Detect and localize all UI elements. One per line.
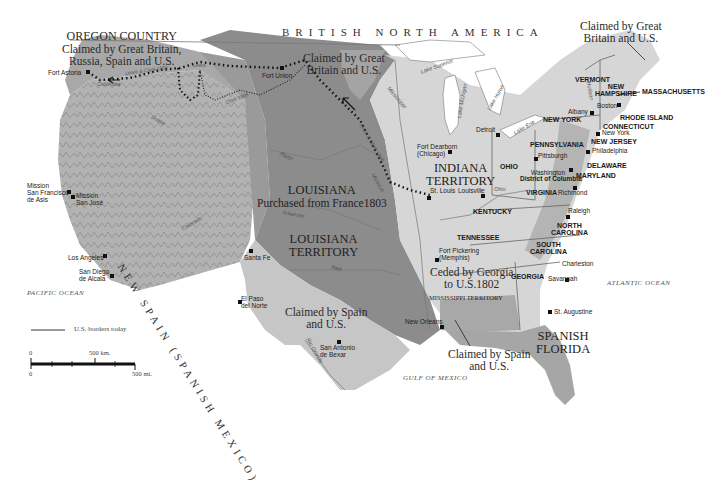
state-north-carolina-line2: CAROLINA [551,229,588,236]
state-north-carolina-line1: NORTH [551,222,588,229]
city-dot-st-augustine [548,310,552,314]
city-dot-washington [569,168,573,172]
louisiana-purchase-line1: LOUISIANA [257,184,387,197]
oregon-country-sub1: Claimed by Great Britain, [62,43,181,55]
city-dot-san-diego [110,274,114,278]
oregon-country-label: OREGON COUNTRY Claimed by Great Britain,… [62,30,181,67]
state-pennsylvania: PENNSYLVANIA [530,141,584,148]
lake-superior [395,40,485,62]
indiana-territory-label: INDIANA TERRITORY [426,162,495,188]
claimed-spain-us-gulf-label: Claimed by Spain and U.S. [448,348,530,372]
city-st-louis: St. Louis [430,188,455,195]
scale-mi-label: 500 mi. [132,371,152,378]
oregon-country-name: OREGON COUNTRY [62,30,181,43]
city-dot-raleigh [566,215,570,219]
claimed-spain-us-gulf-line2: and U.S. [448,360,530,372]
city-savannah: Savannah [548,276,577,283]
state-georgia: GEORGIA [511,273,544,280]
state-delaware: DELAWARE [587,162,627,169]
state-south-carolina: SOUTH CAROLINA [530,241,567,256]
columbia-river-label: Columbia [97,82,120,88]
louisiana-territory-line2: TERRITORY [289,246,358,259]
city-detroit: Detroit [476,127,495,134]
city-mission-sf-line3: de Asis [27,197,69,204]
city-st-augustine: St. Augustine [554,309,592,316]
city-mission-sj: Mission San José [76,193,103,207]
scale-km-zero: 0 [29,350,32,357]
city-fort-dearborn: Fort Dearborn (Chicago) [417,144,457,158]
city-dot-st-louis [427,196,431,200]
claimed-spain-us-texas-label: Claimed by Spain and U.S. [285,306,367,330]
city-fort-pickering: Fort Pickering (Memphis) [439,248,479,262]
city-mission-sj-line2: San José [76,200,103,207]
louisiana-purchase-line2: Purchased from France1803 [257,197,387,209]
city-el-paso: El Paso del Norte [241,296,267,310]
city-pittsburgh: Pittsburgh [538,153,567,160]
louisiana-territory-label: LOUISIANA TERRITORY [289,233,358,259]
state-new-hampshire-line2: HAMPSHIRE [595,90,637,97]
state-new-hampshire: NEW HAMPSHIRE [595,83,637,98]
ceded-georgia-label: Ceded by Georgia to U.S.1802 [430,266,513,290]
city-dot-mission-sj [71,195,75,199]
city-dot-philadelphia [586,150,590,154]
city-boston: Boston [597,103,617,110]
city-san-antonio: San Antonio de Bexar [320,345,355,359]
city-new-orleans: New Orleans [405,319,443,326]
city-fort-dearborn-line2: (Chicago) [417,151,457,158]
state-south-carolina-line2: CAROLINA [530,248,567,255]
claimed-gb-us-north-line2: Britain and U.S. [303,64,385,76]
city-new-york: New York [602,130,629,137]
claimed-spain-us-gulf-line1: Claimed by Spain [448,348,530,360]
ceded-georgia-line1: Ceded by Georgia [430,266,513,278]
lewis-1806-label[interactable]: Lewis [193,63,206,68]
claimed-gb-us-north-label: Claimed by Great Britain and U.S. [303,52,385,76]
pacific-ocean-label: PACIFIC OCEAN [27,290,84,297]
state-tennessee: TENNESSEE [457,234,499,241]
city-charleston: Charleston [562,261,593,268]
state-rhode-island: RHODE ISLAND [620,114,673,121]
city-dot-boston [617,103,621,107]
scale-mi-zero: 0 [29,371,32,378]
legend-borders-label: U.S. borders today [74,326,127,333]
claimed-spain-us-texas-line1: Claimed by Spain [285,306,367,318]
state-new-jersey: NEW JERSEY [591,138,637,145]
state-new-york: NEW YORK [543,116,581,123]
spanish-florida-label: SPANISH FLORIDA [536,330,590,356]
city-santa-fe: Santa Fe [244,255,270,262]
city-richmond: Richmond [558,190,587,197]
british-north-america-label: BRITISH NORTH AMERICA [282,27,544,39]
claimed-gb-us-maine-line2: Britain and U.S. [580,32,662,44]
city-philadelphia: Philadelphia [592,148,627,155]
atlantic-ocean-label: ATLANTIC OCEAN [607,280,670,287]
claimed-gb-us-north-line1: Claimed by Great [303,52,385,64]
city-raleigh: Raleigh [568,208,590,215]
claimed-gb-us-maine-label: Claimed by Great Britain and U.S. [580,20,662,44]
city-fort-pickering-line2: (Memphis) [439,255,479,262]
spanish-florida-line2: FLORIDA [536,343,590,356]
city-dot-albany [590,111,594,115]
city-washington: Washington [531,170,565,177]
city-dot-fort-astoria [86,70,90,74]
city-los-angeles: Los Angeles [68,255,103,262]
ohio-river-label: Ohio [494,187,506,193]
city-dot-fort-union [280,66,284,70]
city-san-diego-line2: de Alcala [79,276,109,283]
state-south-carolina-line1: SOUTH [530,241,567,248]
city-dot-new-york [596,132,600,136]
city-el-paso-line2: del Norte [241,303,267,310]
claimed-spain-us-texas-line2: and U.S. [285,318,367,330]
state-new-hampshire-line1: NEW [595,83,637,90]
gulf-of-mexico-label: GULF OF MEXICO [403,375,468,382]
ceded-georgia-line2: to U.S.1802 [430,278,513,290]
city-dot-detroit [496,133,500,137]
state-massachusetts: MASSACHUSETTS [642,88,705,95]
state-kentucky: KENTUCKY [473,208,512,215]
state-ohio: OHIO [500,163,518,170]
state-north-carolina: NORTH CAROLINA [551,222,588,237]
city-louisville: Louisville [458,188,485,195]
city-san-antonio-line2: de Bexar [320,352,355,359]
louisiana-purchase-label: LOUISIANA Purchased from France1803 [257,184,387,209]
scale-km-label: 500 km. [89,350,110,357]
city-dot-los-angeles [103,254,107,258]
claimed-gb-us-maine-line1: Claimed by Great [580,20,662,32]
